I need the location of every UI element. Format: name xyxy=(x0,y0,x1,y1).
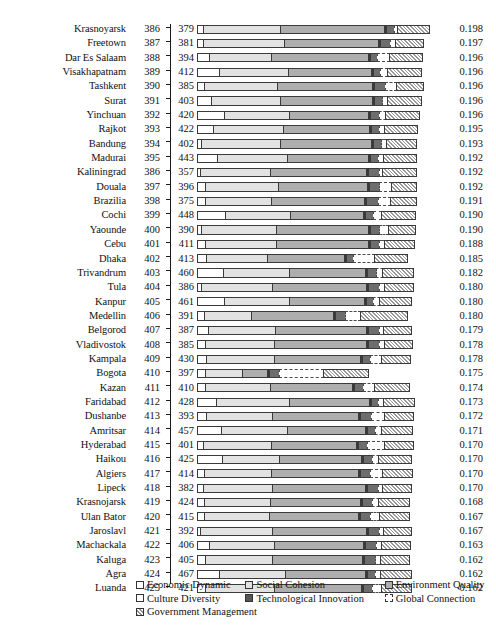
bar-segment-environment xyxy=(288,68,372,77)
row-rank-value: 416 xyxy=(126,452,160,466)
bar-segment-government xyxy=(383,527,412,536)
legend-label: Culture Diversity xyxy=(147,592,220,606)
bar-segment-social xyxy=(200,527,273,536)
legend-item-global[interactable]: Global Connection xyxy=(385,592,496,606)
legend-item-environment[interactable]: Environment Quality xyxy=(385,578,496,592)
chart-row: Trivandrum4034600.182 xyxy=(0,266,496,280)
legend-item-culture[interactable]: Culture Diversity xyxy=(136,592,245,606)
row-bar-cell xyxy=(197,323,437,337)
bar-segment-environment xyxy=(274,541,364,550)
chart-row: Krasnoyarsk3863790.198 xyxy=(0,22,496,36)
bar-segment-social xyxy=(204,82,278,91)
row-score-value: 403 xyxy=(160,94,197,108)
bar-segment-government xyxy=(383,154,417,163)
legend-item-government[interactable]: Government Management xyxy=(136,605,254,619)
stacked-bar xyxy=(197,527,412,536)
chart-row: Machackala4224060.163 xyxy=(0,538,496,552)
row-rank-value: 415 xyxy=(126,438,160,452)
stacked-bar xyxy=(197,484,412,493)
row-bar-cell xyxy=(197,366,437,380)
bar-segment-government xyxy=(382,484,412,493)
bar-segment-government xyxy=(384,412,414,421)
row-score-value: 405 xyxy=(160,553,197,567)
bar-segment-social xyxy=(201,225,277,234)
row-rank-value: 409 xyxy=(126,352,160,366)
row-index-value: 0.172 xyxy=(437,409,483,423)
stacked-bar xyxy=(197,96,422,105)
row-bar-cell xyxy=(197,65,437,79)
row-score-value: 406 xyxy=(160,538,197,552)
row-rank-value: 390 xyxy=(126,79,160,93)
row-city-label: Ulan Bator xyxy=(0,510,126,524)
row-rank-value: 414 xyxy=(126,424,160,438)
row-index-value: 0.197 xyxy=(437,36,483,50)
stacked-bar xyxy=(197,512,410,521)
stacked-bar-chart: Krasnoyarsk3863790.198Freetown3873810.19… xyxy=(0,0,496,644)
row-bar-cell xyxy=(197,395,437,409)
bar-segment-environment xyxy=(276,225,369,234)
stacked-bar xyxy=(197,469,413,478)
chart-row: Haikou4164250.170 xyxy=(0,452,496,466)
chart-row: Bogota4103970.175 xyxy=(0,366,496,380)
bar-segment-economic xyxy=(197,154,218,163)
row-index-value: 0.180 xyxy=(437,309,483,323)
bar-segment-environment xyxy=(280,139,372,148)
legend-item-social[interactable]: Social Cohesion xyxy=(245,578,384,592)
stacked-bar xyxy=(197,340,413,349)
row-city-label: Kampala xyxy=(0,352,126,366)
bar-segment-social xyxy=(204,498,271,507)
stacked-bar xyxy=(197,197,417,206)
row-rank-value: 389 xyxy=(126,65,160,79)
stacked-bar xyxy=(197,68,422,77)
legend-item-economic[interactable]: Economic Dynamic xyxy=(136,578,245,592)
bar-segment-environment xyxy=(270,168,367,177)
row-index-value: 0.170 xyxy=(437,481,483,495)
row-index-value: 0.180 xyxy=(437,280,483,294)
row-city-label: Madurai xyxy=(0,151,126,165)
row-bar-cell xyxy=(197,352,437,366)
bar-segment-government xyxy=(374,383,410,392)
chart-row: Kazan4114100.174 xyxy=(0,381,496,395)
row-city-label: Algiers xyxy=(0,467,126,481)
row-city-label: Medellin xyxy=(0,309,126,323)
bar-segment-economic xyxy=(197,426,222,435)
legend-swatch-global-icon xyxy=(385,594,393,602)
bar-segment-environment xyxy=(272,527,367,536)
row-score-value: 390 xyxy=(160,223,197,237)
bar-segment-government xyxy=(380,555,410,564)
row-rank-value: 406 xyxy=(126,309,160,323)
row-rank-value: 413 xyxy=(126,409,160,423)
bar-segment-social xyxy=(205,555,273,564)
row-bar-cell xyxy=(197,510,437,524)
bar-segment-government xyxy=(384,441,414,450)
bar-segment-environment xyxy=(283,125,370,134)
row-index-value: 0.178 xyxy=(437,338,483,352)
stacked-bar xyxy=(197,326,412,335)
bar-segment-environment xyxy=(270,498,361,507)
bar-segment-environment xyxy=(289,268,366,277)
stacked-bar xyxy=(197,211,416,220)
stacked-bar xyxy=(197,412,414,421)
row-index-value: 0.170 xyxy=(437,438,483,452)
bar-segment-economic xyxy=(197,297,225,306)
row-bar-cell xyxy=(197,36,437,50)
row-score-value: 393 xyxy=(160,409,197,423)
row-rank-value: 410 xyxy=(126,366,160,380)
bar-segment-global xyxy=(363,383,375,392)
bar-segment-technological xyxy=(365,541,377,550)
row-city-label: Cochi xyxy=(0,208,126,222)
row-index-value: 0.170 xyxy=(437,467,483,481)
legend-item-technological[interactable]: Technological Innovation xyxy=(245,592,384,606)
row-index-value: 0.173 xyxy=(437,395,483,409)
stacked-bar xyxy=(197,240,415,249)
stacked-bar xyxy=(197,383,410,392)
bar-segment-social xyxy=(205,182,279,191)
row-city-label: Kaliningrad xyxy=(0,165,126,179)
bar-segment-government xyxy=(323,369,369,378)
row-city-label: Visakhapatnam xyxy=(0,65,126,79)
row-bar-cell xyxy=(197,194,437,208)
bar-segment-social xyxy=(209,53,272,62)
chart-row: Belgorod4073870.179 xyxy=(0,323,496,337)
chart-legend: Economic DynamicSocial CohesionEnvironme… xyxy=(136,578,496,619)
row-city-label: Tashkent xyxy=(0,79,126,93)
